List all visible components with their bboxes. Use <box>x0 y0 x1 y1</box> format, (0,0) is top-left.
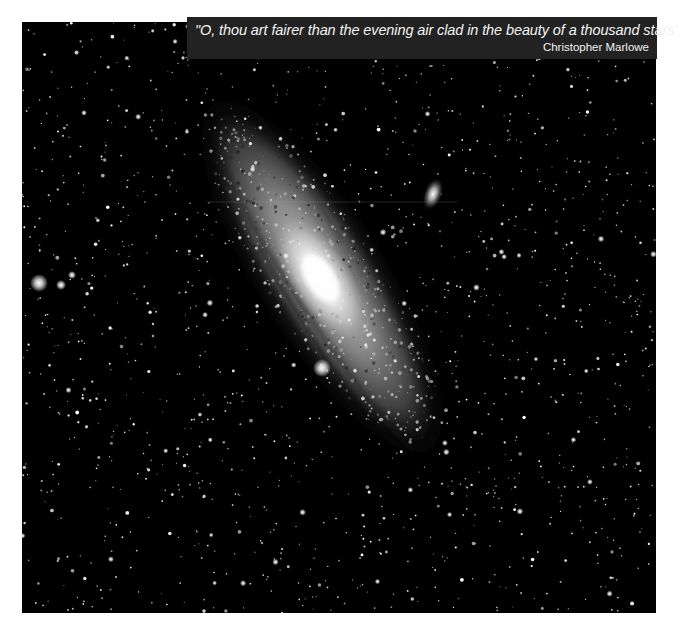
galaxy-photo <box>22 22 656 613</box>
star-field <box>22 22 656 613</box>
quote-banner: "O, thou art fairer than the evening air… <box>187 17 657 59</box>
quote-text: "O, thou art fairer than the evening air… <box>195 21 649 39</box>
quote-author: Christopher Marlowe <box>195 39 649 55</box>
